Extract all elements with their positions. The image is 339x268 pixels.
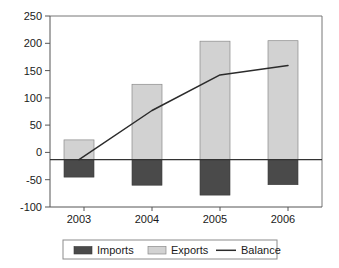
chart-container: 250 200 150 100 50 0 -50 -100: [0, 0, 339, 268]
y-tick-label: 150: [24, 65, 42, 77]
x-tick-label: 2004: [135, 213, 159, 225]
legend-label-imports: Imports: [97, 244, 134, 256]
y-tick-label: -50: [26, 174, 42, 186]
bar-imports-2006: [268, 160, 298, 185]
x-tick-label: 2006: [271, 213, 295, 225]
legend-swatch-exports: [148, 247, 166, 255]
y-tick-label: 50: [30, 119, 42, 131]
x-tick-label: 2003: [67, 213, 91, 225]
y-axis-ticks: [45, 16, 50, 207]
bar-exports-2004: [132, 84, 162, 159]
legend-label-exports: Exports: [171, 244, 209, 256]
y-tick-label: 100: [24, 92, 42, 104]
x-axis-tick-labels: 2003 2004 2005 2006: [67, 213, 295, 225]
bar-imports-2005: [200, 160, 230, 196]
chart-legend: Imports Exports Balance: [63, 240, 281, 259]
bar-imports-2003: [64, 160, 94, 178]
bar-exports-2005: [200, 41, 230, 159]
legend-label-balance: Balance: [241, 244, 281, 256]
y-tick-label: 250: [24, 10, 42, 22]
y-tick-label: 0: [36, 146, 42, 158]
bar-imports-2004: [132, 160, 162, 186]
y-axis-tick-labels: 250 200 150 100 50 0 -50 -100: [20, 10, 42, 213]
bar-exports-2003: [64, 140, 94, 160]
grouped-bar-line-chart: 250 200 150 100 50 0 -50 -100: [0, 0, 339, 268]
x-axis-ticks: [84, 207, 288, 211]
x-tick-label: 2005: [203, 213, 227, 225]
bar-exports-2006: [268, 41, 298, 160]
y-tick-label: 200: [24, 37, 42, 49]
y-tick-label: -100: [20, 201, 42, 213]
legend-swatch-imports: [74, 247, 92, 255]
